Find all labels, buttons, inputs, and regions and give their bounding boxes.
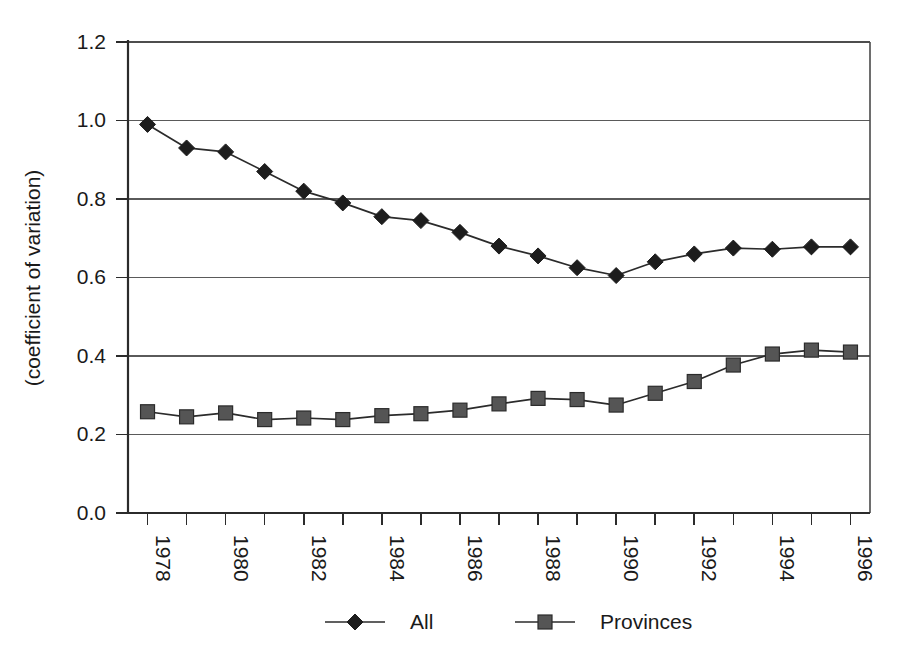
x-tick-label: 1992 [698,535,721,582]
data-point-marker [491,238,507,254]
data-point-marker [297,411,311,425]
data-point-marker [452,224,468,240]
data-point-marker [609,398,623,412]
x-tick-label: 1986 [464,535,487,582]
data-point-marker [413,213,429,229]
data-point-marker [842,239,858,255]
data-point-marker [492,397,506,411]
x-axis-ticks [148,513,851,525]
data-point-marker [218,144,234,160]
data-point-marker [530,248,546,264]
legend-entry-provinces[interactable]: Provinces [515,610,692,633]
legend-label: All [410,610,433,633]
data-point-marker [296,183,312,199]
y-axis-ticks [116,42,128,513]
data-point-marker [257,164,273,180]
data-point-marker [725,240,741,256]
data-point-marker [375,409,389,423]
x-tick-label: 1990 [620,535,643,582]
data-point-marker [453,403,467,417]
series-all [140,116,859,283]
data-point-marker [803,239,819,255]
chart-figure: 0.00.20.40.60.81.01.2 197819801982198419… [0,0,914,656]
legend-entry-all[interactable]: All [325,610,433,633]
data-point-marker [764,241,780,257]
data-point-marker [141,405,155,419]
x-tick-label: 1984 [386,535,409,582]
data-point-marker [374,209,390,225]
data-point-marker [804,343,818,357]
plot-frame [126,40,870,513]
data-point-marker [531,391,545,405]
line-chart: 0.00.20.40.60.81.01.2 197819801982198419… [0,0,914,656]
legend-label: Provinces [600,610,692,633]
data-point-marker [219,406,233,420]
data-point-marker [686,246,702,262]
y-tick-label: 1.0 [77,108,106,131]
x-tick-label: 1994 [776,535,799,582]
legend-marker-diamond-icon [347,614,363,630]
x-tick-label: 1988 [542,535,565,582]
data-point-marker [414,407,428,421]
data-point-marker [570,393,584,407]
y-tick-label: 0.6 [77,265,106,288]
data-point-marker [843,345,857,359]
y-tick-label: 0.2 [77,422,106,445]
data-point-marker [608,268,624,284]
x-axis-tick-labels: 1978198019821984198619881990199219941996 [152,535,878,582]
y-axis-title: (coefficient of variation) [21,170,44,387]
chart-legend: AllProvinces [325,610,692,633]
data-point-marker [687,375,701,389]
x-tick-label: 1982 [308,535,331,582]
gridlines [128,42,870,513]
data-point-marker [258,413,272,427]
data-point-marker [765,347,779,361]
x-tick-label: 1980 [230,535,253,582]
data-point-marker [335,195,351,211]
y-tick-label: 1.2 [77,30,106,53]
data-point-marker [180,410,194,424]
data-point-marker [648,386,662,400]
data-point-marker [140,116,156,132]
data-point-marker [726,358,740,372]
data-point-marker [569,260,585,276]
x-tick-label: 1996 [854,535,877,582]
x-tick-label: 1978 [152,535,175,582]
data-point-marker [647,254,663,270]
y-tick-label: 0.8 [77,187,106,210]
y-tick-label: 0.4 [77,344,107,367]
data-point-marker [179,140,195,156]
y-axis-tick-labels: 0.00.20.40.60.81.01.2 [77,30,107,524]
y-tick-label: 0.0 [77,501,106,524]
legend-marker-square-icon [538,615,552,629]
data-series-layer [140,116,859,426]
data-point-marker [336,413,350,427]
